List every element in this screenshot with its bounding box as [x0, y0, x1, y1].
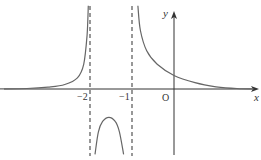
- curve-middle-branch: [95, 117, 124, 154]
- curve-left-branch: [0, 6, 88, 89]
- x-tick-label-minus-1: −1: [119, 91, 130, 102]
- x-tick-label-minus-2: −2: [77, 91, 88, 102]
- origin-label: O: [162, 92, 169, 103]
- function-graph: x y O −2 −1: [0, 0, 261, 160]
- y-axis-label: y: [162, 7, 168, 19]
- x-axis-label: x: [253, 91, 259, 103]
- curve-right-branch: [138, 6, 254, 89]
